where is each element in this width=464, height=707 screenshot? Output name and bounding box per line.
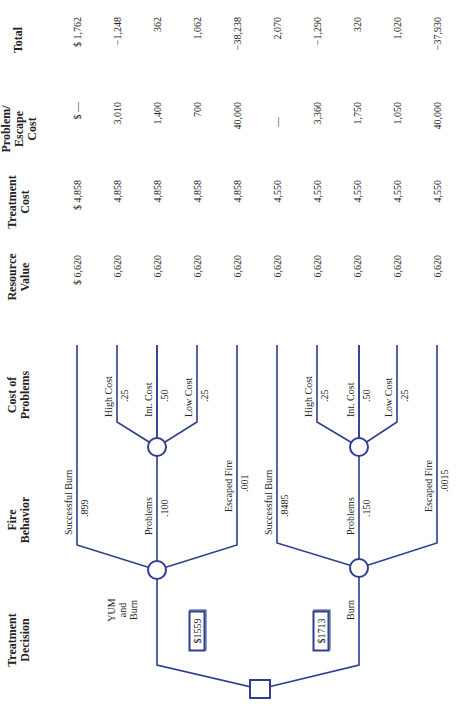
treatment-cost: 4,550 <box>352 180 363 203</box>
problem-escape-cost: 1,050 <box>392 102 403 125</box>
branch-probability: .25 <box>199 390 210 403</box>
header-line: Decision <box>19 613 32 667</box>
total: 362 <box>152 17 163 32</box>
chance-node-cost-2 <box>350 438 368 456</box>
resource-value: 6,620 <box>112 255 123 278</box>
branch-probability: .50 <box>361 390 372 403</box>
resource-value: $ 6,620 <box>72 255 83 285</box>
branch-probability: .25 <box>319 390 330 403</box>
branch-label: Problems <box>345 497 356 535</box>
treatment-cost: 4,858 <box>192 180 203 203</box>
header-treatment-cost: Treatment Cost <box>6 175 32 229</box>
total: $ 1,762 <box>72 17 83 47</box>
decision-label-line: Burn <box>345 600 356 620</box>
treatment-cost: 4,550 <box>272 180 283 203</box>
treatment-cost: 4,550 <box>432 180 443 203</box>
problem-escape-cost: $ — <box>72 102 83 120</box>
branch-probability: .25 <box>119 390 130 403</box>
decision-label-line: Burn <box>128 598 139 621</box>
expected-value-box: $1713 <box>313 611 330 652</box>
resource-value: 6,620 <box>432 255 443 278</box>
total: −1,290 <box>312 17 323 45</box>
header-total: Total <box>12 27 25 53</box>
resource-value: 6,620 <box>152 255 163 278</box>
header-resource-value: Resource Value <box>6 253 32 300</box>
header-treatment-decision: Treatment Decision <box>6 613 32 667</box>
branch-probability: .899 <box>79 500 90 518</box>
total: 2,070 <box>272 17 283 40</box>
branch-label: Successful Burn <box>63 470 74 535</box>
expected-value-box: $1559 <box>189 611 206 652</box>
branch-probability: .25 <box>399 390 410 403</box>
total: −37,930 <box>432 17 443 50</box>
treatment-cost: 4,858 <box>112 180 123 203</box>
branch-label: High Cost <box>103 376 114 417</box>
branch-probability: .001 <box>239 475 250 493</box>
treatment-cost: 4,858 <box>152 180 163 203</box>
resource-value: 6,620 <box>312 255 323 278</box>
problem-escape-cost: 3,010 <box>112 102 123 125</box>
decision-tree-figure: Treatment Decision Fire Behavior Cost of… <box>0 0 464 707</box>
resource-value: 6,620 <box>192 255 203 278</box>
branch-label: Int. Cost <box>143 383 154 417</box>
treatment-cost: 4,858 <box>232 180 243 203</box>
header-line: Problems <box>19 371 32 419</box>
branch-label: Problems <box>143 497 154 535</box>
total: 320 <box>352 17 363 32</box>
branch-label: Escaped Fire <box>223 460 234 512</box>
branch-label: Successful Burn <box>263 470 274 535</box>
total: −1,248 <box>112 17 123 45</box>
problem-escape-cost: 3,360 <box>312 102 323 125</box>
total: 1,020 <box>392 17 403 40</box>
branch-label: Low Cost <box>183 378 194 417</box>
treatment-cost: 4,550 <box>392 180 403 203</box>
problem-escape-cost: 40,000 <box>432 102 443 130</box>
branch-label: High Cost <box>303 376 314 417</box>
total: 1,062 <box>192 17 203 40</box>
problem-escape-cost: 1,750 <box>352 102 363 125</box>
branch-probability: .8485 <box>279 495 290 518</box>
header-line: Total <box>12 27 25 53</box>
branch-probability: .50 <box>159 390 170 403</box>
resource-value: 6,620 <box>232 255 243 278</box>
branch-label: Int. Cost <box>345 383 356 417</box>
treatment-cost: $ 4,858 <box>72 180 83 210</box>
branch-label: Low Cost <box>383 378 394 417</box>
problem-escape-cost: — <box>272 117 283 127</box>
header-line: Value <box>19 253 32 300</box>
total: −38,238 <box>232 17 243 50</box>
header-line: Cost <box>26 105 39 152</box>
branch-probability: .150 <box>361 500 372 518</box>
resource-value: 6,620 <box>352 255 363 278</box>
header-cost-of-problems: Cost of Problems <box>6 371 32 419</box>
chance-node-fire-1 <box>148 561 166 579</box>
treatment-cost: 4,550 <box>312 180 323 203</box>
problem-escape-cost: 700 <box>192 102 203 117</box>
resource-value: 6,620 <box>272 255 283 278</box>
chance-node-fire-2 <box>350 559 368 577</box>
header-fire-behavior: Fire Behavior <box>6 497 32 544</box>
decision-label-burn: Burn <box>345 600 356 620</box>
branch-probability: .0015 <box>439 470 450 493</box>
resource-value: 6,620 <box>392 255 403 278</box>
branch-probability: .100 <box>159 500 170 518</box>
decision-label-line: and <box>117 598 128 621</box>
header-problem-escape-cost: Problem/ Escape Cost <box>0 105 39 152</box>
branch-label: Escaped Fire <box>423 460 434 512</box>
problem-escape-cost: 1,400 <box>152 102 163 125</box>
decision-label-yum-and-burn: YUM and Burn <box>106 598 139 621</box>
decision-label-line: YUM <box>106 598 117 621</box>
header-line: Cost <box>19 175 32 229</box>
problem-escape-cost: 40,000 <box>232 102 243 130</box>
header-line: Behavior <box>19 497 32 544</box>
decision-node-square <box>250 680 270 698</box>
chance-node-cost-1 <box>148 438 166 456</box>
